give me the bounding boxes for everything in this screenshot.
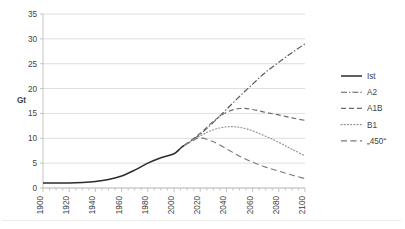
- series-line-450: [184, 138, 305, 179]
- x-tick-label: 2080: [272, 196, 281, 215]
- y-axis-title: Gt: [17, 96, 26, 105]
- y-tick-label: 0: [32, 184, 37, 193]
- x-tick-label: 1960: [115, 196, 124, 215]
- y-tick-label: 10: [28, 134, 38, 143]
- x-tick-label: 1900: [36, 196, 45, 215]
- x-tick-label: 1940: [88, 196, 97, 215]
- legend: IstA2A1BB1„450“: [341, 72, 386, 146]
- y-tick-label: 15: [28, 109, 38, 118]
- series-line-ist: [43, 145, 184, 183]
- axis-lines-group: [43, 14, 305, 188]
- y-tick-label: 5: [32, 159, 37, 168]
- y-tick-label: 30: [28, 35, 38, 44]
- x-tick-label: 1980: [141, 196, 150, 215]
- y-tick-label: 35: [28, 10, 38, 19]
- x-tick-label: 2060: [246, 196, 255, 215]
- legend-label-b1: B1: [367, 121, 377, 130]
- series-line-b1: [184, 127, 305, 156]
- footer-divider: [2, 220, 401, 221]
- chart-canvas: 05101520253035 1900192019401960198020002…: [0, 0, 405, 229]
- legend-label-a1b: A1B: [367, 104, 383, 113]
- legend-label-ist: Ist: [367, 72, 376, 81]
- gridlines-group: [43, 14, 305, 188]
- x-tick-marks-group: [43, 188, 305, 192]
- legend-label-a2: A2: [367, 88, 377, 97]
- y-tick-label: 20: [28, 85, 38, 94]
- legend-label-450: „450“: [367, 137, 386, 146]
- x-tick-label: 2100: [298, 196, 307, 215]
- x-tick-label: 2040: [219, 196, 228, 215]
- y-tick-label: 25: [28, 60, 38, 69]
- x-tick-label: 1920: [62, 196, 71, 215]
- emissions-scenarios-chart: 05101520253035 1900192019401960198020002…: [0, 0, 405, 229]
- y-axis-tick-labels: 05101520253035: [28, 10, 43, 193]
- series-line-a1b: [184, 108, 305, 145]
- series-line-a2: [184, 44, 305, 145]
- x-tick-label: 2000: [167, 196, 176, 215]
- x-tick-label: 2020: [193, 196, 202, 215]
- x-axis-tick-labels: 1900192019401960198020002020204020602080…: [36, 196, 307, 215]
